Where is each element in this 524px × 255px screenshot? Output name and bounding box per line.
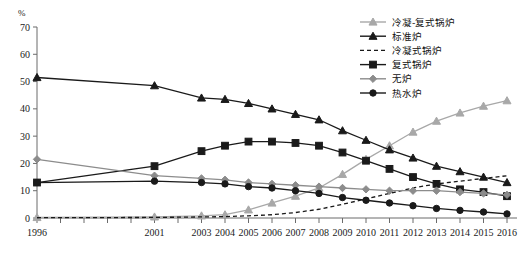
data-point-square [339,149,346,156]
y-tick-label: 0 [25,213,30,224]
data-point-circle [363,197,369,203]
x-tick-label: 2009 [333,227,353,238]
legend-item-0: 冷凝-复式锅炉 [360,17,455,28]
data-point-circle [245,183,251,189]
y-tick-label: 10 [20,185,30,196]
x-axis: 1996200120032004200520062007200820092010… [27,218,517,238]
data-point-circle [269,185,275,191]
x-tick-label: 2001 [145,227,165,238]
line-chart: 010203040506070% 19962001200320042005200… [0,0,524,255]
x-tick-label: 2003 [192,227,212,238]
y-tick-label: 60 [20,49,30,60]
y-tick-label: 70 [20,22,30,33]
y-axis: 010203040506070% [18,8,37,224]
chart-container: 010203040506070% 19962001200320042005200… [0,0,524,255]
data-point-square [386,165,393,172]
x-tick-label: 2007 [286,227,306,238]
x-tick-label: 2004 [215,227,235,238]
data-point-circle [410,203,416,209]
data-point-circle [433,205,439,211]
x-tick-label: 2008 [309,227,329,238]
data-point-square [363,157,370,164]
data-point-circle [292,188,298,194]
x-tick-label: 2012 [403,227,423,238]
x-tick-label: 2015 [474,227,494,238]
legend-item-1: 标准炉 [360,31,422,42]
x-tick-label: 2005 [239,227,259,238]
data-point-triangle [409,128,417,135]
data-point-triangle [503,97,511,104]
legend-item-5: 热水炉 [360,88,422,99]
data-point-diamond [433,187,440,194]
data-point-square [316,142,323,149]
data-point-diamond [33,156,40,163]
data-point-square [245,138,252,145]
data-point-square [370,61,377,68]
data-point-circle [386,200,392,206]
data-point-square [151,163,158,170]
data-point-circle [198,179,204,185]
data-point-diamond [339,184,346,191]
data-point-square [269,138,276,145]
legend-item-3: 复式锅炉 [360,59,432,70]
legend-label: 冷凝式锅炉 [392,45,442,56]
series-lines [33,73,511,220]
series-0 [33,97,511,221]
data-point-circle [222,181,228,187]
legend-label: 冷凝-复式锅炉 [392,17,455,28]
legend-label: 标准炉 [392,31,422,42]
data-point-diamond [362,186,369,193]
data-point-circle [34,179,40,185]
data-point-circle [316,190,322,196]
data-point-circle [504,211,510,217]
series-4 [33,156,510,199]
legend-label: 无炉 [392,73,412,84]
data-point-triangle [339,170,347,177]
data-point-square [433,180,440,187]
data-point-circle [370,90,376,96]
y-tick-label: 40 [20,103,30,114]
data-point-square [222,142,229,149]
data-point-circle [339,194,345,200]
data-point-diamond [369,75,376,82]
x-tick-label: 2011 [380,227,400,238]
data-point-triangle [339,127,347,134]
legend-label: 热水炉 [392,88,422,99]
x-tick-label: 2006 [262,227,282,238]
data-point-square [292,140,299,147]
legend-item-4: 无炉 [360,73,412,84]
x-tick-label: 2014 [450,227,470,238]
data-point-square [410,174,417,181]
x-tick-label: 2010 [356,227,376,238]
x-tick-label: 2013 [427,227,447,238]
y-tick-label: 30 [20,131,30,142]
data-point-circle [480,209,486,215]
y-tick-label: 20 [20,158,30,169]
y-axis-unit-label: % [18,8,26,18]
data-point-square [198,148,205,155]
x-tick-label: 2016 [497,227,517,238]
data-point-circle [457,207,463,213]
y-tick-label: 50 [20,76,30,87]
x-tick-label: 1996 [27,227,47,238]
legend-label: 复式锅炉 [392,59,432,70]
data-point-circle [151,178,157,184]
legend-item-2: 冷凝式锅炉 [360,45,442,56]
chart-legend: 冷凝-复式锅炉标准炉冷凝式锅炉复式锅炉无炉热水炉 [360,17,455,99]
